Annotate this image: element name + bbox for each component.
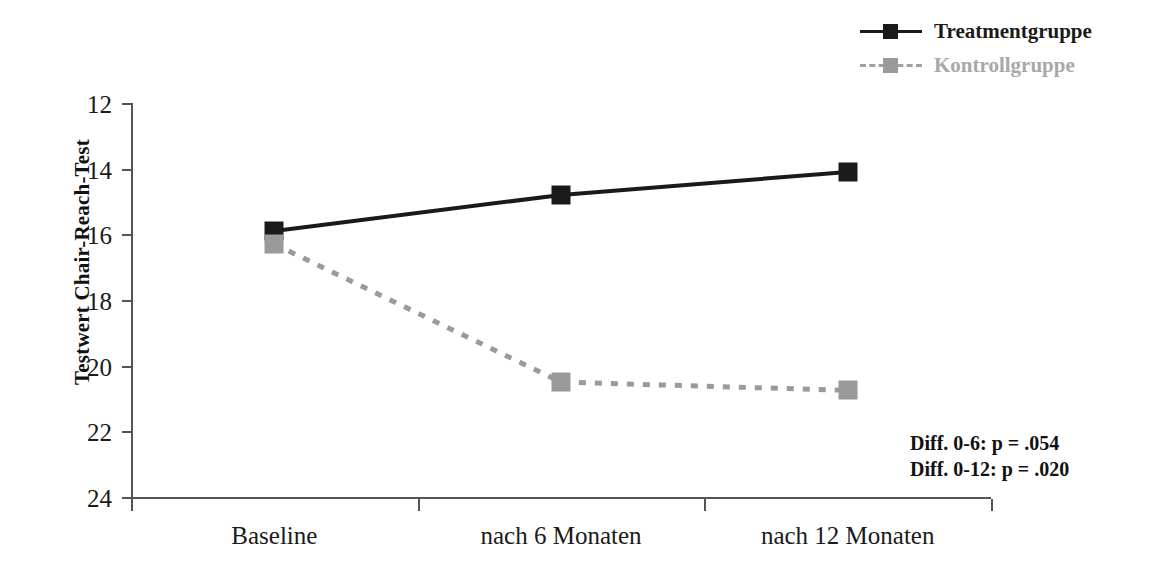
data-point-marker — [838, 162, 857, 181]
y-axis-tick-label: 12 — [87, 90, 112, 120]
x-axis-tick — [991, 499, 993, 511]
legend-label-kontrollgruppe: Kontrollgruppe — [922, 55, 1075, 76]
data-point-marker — [265, 235, 284, 254]
series-lines — [131, 103, 991, 497]
y-axis-tick-label: 20 — [87, 353, 112, 383]
y-axis-tick-label: 18 — [87, 287, 112, 317]
y-axis-tick-label: 24 — [87, 484, 112, 514]
chart-legend: Treatmentgruppe Kontrollgruppe — [860, 14, 1160, 82]
y-axis-tick-label: 14 — [87, 156, 112, 186]
legend-marker-square-gray-icon — [883, 58, 898, 73]
data-point-marker — [838, 381, 857, 400]
legend-item-kontrollgruppe: Kontrollgruppe — [860, 48, 1160, 82]
y-axis-title: Testwert Chair-Reach-Test — [62, 65, 102, 459]
x-axis-tick — [418, 499, 420, 511]
x-axis-line: Baselinenach 6 Monatennach 12 Monaten — [131, 497, 991, 499]
statistics-annotation: Diff. 0-6: p = .054 Diff. 0-12: p = .020 — [910, 430, 1069, 482]
y-axis-tick-label: 22 — [87, 418, 112, 448]
chart-figure: Treatmentgruppe Kontrollgruppe Testwert … — [0, 0, 1169, 584]
legend-item-treatmentgruppe: Treatmentgruppe — [860, 14, 1160, 48]
data-point-marker — [552, 373, 571, 392]
x-axis-tick-label: Baseline — [231, 523, 317, 548]
legend-label-treatmentgruppe: Treatmentgruppe — [922, 21, 1092, 42]
x-axis-tick-label: nach 12 Monaten — [761, 523, 935, 548]
y-axis-tick-label: 16 — [87, 221, 112, 251]
data-point-marker — [552, 185, 571, 204]
x-axis-tick — [704, 499, 706, 511]
x-axis-tick — [131, 499, 133, 511]
legend-key-treatmentgruppe — [860, 22, 922, 40]
annotation-diff-0-6: Diff. 0-6: p = .054 — [910, 430, 1069, 456]
plot-area — [131, 103, 991, 497]
x-axis-tick-label: nach 6 Monaten — [480, 523, 641, 548]
legend-key-kontrollgruppe — [860, 56, 922, 74]
legend-marker-square-black-icon — [883, 24, 898, 39]
series-line-kontrollgruppe — [274, 244, 847, 390]
annotation-diff-0-12: Diff. 0-12: p = .020 — [910, 456, 1069, 482]
